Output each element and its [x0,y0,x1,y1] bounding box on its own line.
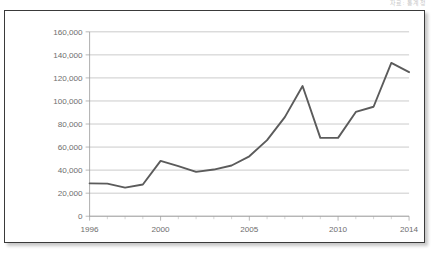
y-axis-tick-label: 0 [78,212,83,221]
data-series-line [90,63,409,188]
source-watermark-text: 자료: 통계청 [390,0,426,7]
y-axis-tick-label: 40,000 [58,166,83,175]
x-axis-tick-label: 2000 [152,225,171,234]
y-axis-tick-label: 140,000 [53,51,83,60]
x-axis-labels-group: 19962000200520102014 [81,225,419,234]
x-axis-tick-label: 2010 [329,225,348,234]
x-axis-tick-label: 2005 [240,225,259,234]
y-axis-tick-label: 80,000 [58,120,83,129]
plot-area: 020,00040,00060,00080,000100,000120,0001… [5,11,424,242]
gridlines-group [90,32,409,216]
x-axis-tick-label: 2014 [400,225,419,234]
y-axis-tick-label: 100,000 [53,97,83,106]
y-tick-marks-group [86,32,90,216]
header-strip: 자료: 통계청 [0,0,434,9]
chart-page: 자료: 통계청 020,00040,00060,00080,000100,000… [0,0,434,257]
y-axis-tick-label: 160,000 [53,28,83,37]
y-axis-tick-label: 120,000 [53,74,83,83]
chart-card: 020,00040,00060,00080,000100,000120,0001… [4,10,425,243]
y-axis-tick-label: 60,000 [58,143,83,152]
y-axis-tick-label: 20,000 [58,189,83,198]
y-axis-labels-group: 020,00040,00060,00080,000100,000120,0001… [53,28,83,221]
x-tick-marks-group [90,216,409,220]
x-axis-tick-label: 1996 [81,225,100,234]
line-chart-svg: 020,00040,00060,00080,000100,000120,0001… [5,11,424,242]
